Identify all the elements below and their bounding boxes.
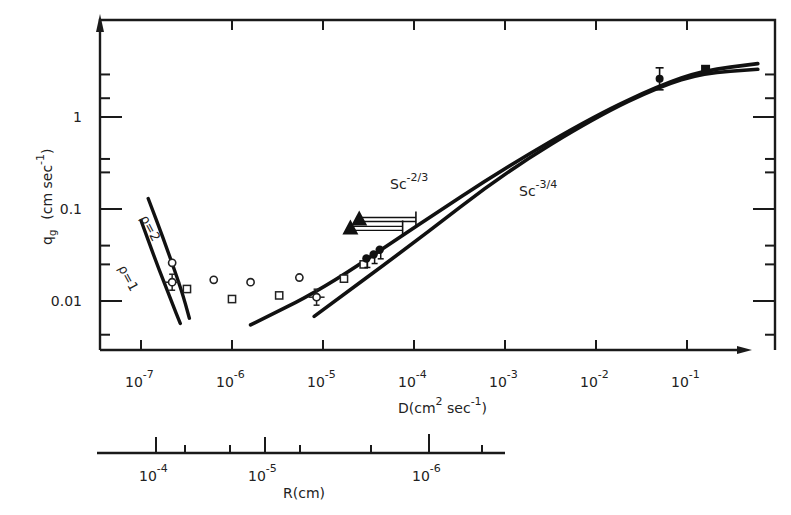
open-square-marker <box>276 292 283 299</box>
chart: 10-710-610-510-410-310-210-1 10.10.01 10… <box>0 0 791 515</box>
open-circle-marker <box>210 276 217 283</box>
x-tick-label: 10-1 <box>671 368 700 390</box>
filled-square-marker <box>701 65 710 74</box>
r-tick-label: 10-5 <box>248 462 277 484</box>
open-square-marker <box>183 285 190 292</box>
label-sc-3-4: Sc-3/4 <box>519 178 557 199</box>
y-tick-label: 1 <box>73 109 82 125</box>
x-tick-label: 10-3 <box>489 368 518 390</box>
secondary-axis: 10-410-510-6 <box>97 434 505 484</box>
y-axis-arrow-icon <box>96 14 104 32</box>
r-tick-label: 10-4 <box>139 462 168 484</box>
y-axis-label: qg(cm sec-1) <box>34 148 58 245</box>
svg-text:qg(cm sec-1): qg(cm sec-1) <box>34 148 58 245</box>
x-axis-label: D(cm2 sec-1) <box>398 395 487 416</box>
open-circle-err-marker <box>169 279 176 286</box>
y-tick-label: 0.1 <box>60 201 82 217</box>
x-tick-label: 10-6 <box>216 368 245 390</box>
x-tick-label: 10-2 <box>580 368 609 390</box>
x-tick-label: 10-7 <box>125 368 154 390</box>
curves <box>141 64 758 325</box>
plot-frame <box>96 14 775 354</box>
open-circle-marker <box>169 259 176 266</box>
label-sc-2-3: Sc-2/3 <box>390 171 428 192</box>
curve-sc-3-4 <box>314 69 758 316</box>
open-circle-err-marker <box>313 294 320 301</box>
plot-border <box>100 20 775 350</box>
y-axis-ticks: 10.10.01 <box>51 74 775 334</box>
curve-sc-2-3 <box>251 64 758 325</box>
filled-point-marker <box>656 75 664 83</box>
y-tick-label: 0.01 <box>51 293 82 309</box>
x-tick-label: 10-5 <box>307 368 336 390</box>
secondary-axis-label: R(cm) <box>283 485 325 501</box>
filled-circle-marker <box>376 246 384 254</box>
open-square-marker <box>228 295 235 302</box>
x-axis-ticks: 10-710-610-510-410-310-210-1 <box>125 20 700 390</box>
filled-circle-marker <box>362 254 370 262</box>
r-tick-label: 10-6 <box>412 462 441 484</box>
label-rho-1: ρ=1 <box>115 262 141 293</box>
open-circle-marker <box>296 274 303 281</box>
x-axis-arrow-icon <box>737 346 752 354</box>
open-circle-marker <box>247 279 254 286</box>
open-square-marker <box>340 275 347 282</box>
label-rho-2: ρ=2 <box>137 212 163 243</box>
x-tick-label: 10-4 <box>398 368 427 390</box>
